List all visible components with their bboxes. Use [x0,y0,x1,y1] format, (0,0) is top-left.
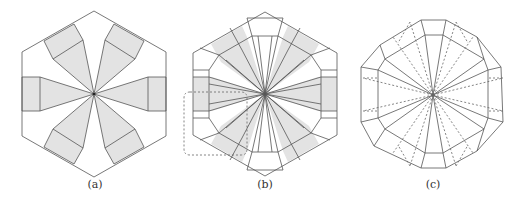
panel-c-label: (c) [418,178,448,191]
panel-c-diagram [361,20,503,168]
panel-b-diagram [184,12,337,176]
panel-b-label: (b) [250,178,280,191]
panel-a-label: (a) [80,178,110,191]
figure-canvas [0,0,525,203]
panel-a-diagram [22,11,166,177]
